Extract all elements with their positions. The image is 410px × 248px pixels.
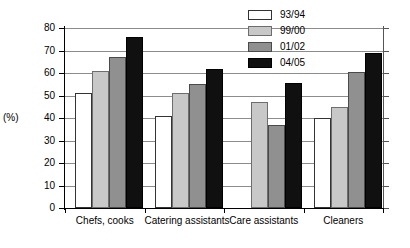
bar (314, 118, 331, 208)
x-axis-category-label: Chefs, cooks (65, 215, 145, 226)
y-axis-tick-label: 50 (44, 91, 55, 101)
legend-item-label: 01/02 (280, 42, 305, 52)
bar (251, 102, 268, 208)
right-axis-tick (384, 118, 389, 119)
x-axis-tick (304, 208, 305, 213)
bar (189, 84, 206, 208)
right-axis-line (383, 26, 384, 210)
x-axis-tick (383, 208, 384, 213)
legend-swatch-icon (248, 58, 272, 68)
bar (365, 53, 382, 208)
legend-swatch-icon (248, 26, 272, 36)
right-axis-tick (384, 73, 389, 74)
x-axis-category-label: Care assistants (224, 215, 304, 226)
x-axis-category-label: Cleaners (304, 215, 384, 226)
bar (285, 83, 302, 208)
y-axis-tick-label: 20 (44, 158, 55, 168)
right-axis-tick (384, 208, 389, 209)
bar (92, 71, 109, 208)
y-axis-tick-label: 70 (44, 46, 55, 56)
x-axis-category-label: Catering assistants (145, 215, 225, 226)
right-axis-tick (384, 163, 389, 164)
legend-item-label: 99/00 (280, 26, 305, 36)
bar (75, 93, 92, 208)
y-axis-tick-label: 0 (49, 203, 55, 213)
y-axis-tick-label: 30 (44, 136, 55, 146)
bar (155, 116, 172, 208)
legend-item-label: 93/94 (280, 10, 305, 20)
y-axis-tick-label: 60 (44, 68, 55, 78)
legend-item-label: 04/05 (280, 58, 305, 68)
y-axis-tick-label: 80 (44, 23, 55, 33)
bar (206, 69, 223, 209)
legend-item: 99/00 (248, 24, 343, 38)
x-axis-tick (65, 208, 66, 213)
bar (268, 125, 285, 208)
right-axis-tick (384, 51, 389, 52)
x-axis-tick (224, 208, 225, 213)
right-axis-tick (384, 28, 389, 29)
bar (331, 107, 348, 208)
y-axis-unit-label: (%) (3, 113, 19, 123)
right-axis-tick (384, 96, 389, 97)
right-axis-tick (384, 186, 389, 187)
bar (348, 72, 365, 208)
bar (172, 93, 189, 208)
y-axis-tick-label: 40 (44, 113, 55, 123)
bar (126, 37, 143, 208)
legend-item: 01/02 (248, 40, 343, 54)
y-axis-tick-label: 10 (44, 181, 55, 191)
bar (109, 57, 126, 208)
bar-chart: 01020304050607080 (%) Chefs, cooksCateri… (0, 0, 410, 248)
x-axis-tick (145, 208, 146, 213)
legend-item: 04/05 (248, 56, 343, 70)
right-axis-tick (384, 141, 389, 142)
legend-swatch-icon (248, 10, 272, 20)
legend-swatch-icon (248, 42, 272, 52)
legend-item: 93/94 (248, 8, 343, 22)
chart-legend: 93/9499/0001/0204/05 (248, 8, 343, 72)
